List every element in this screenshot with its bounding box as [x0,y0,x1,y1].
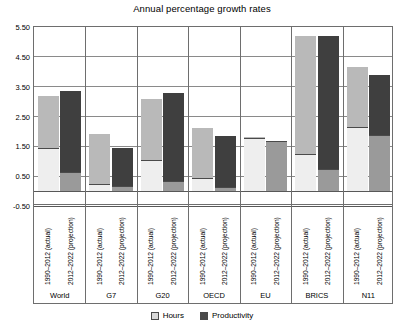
segment-productivity [295,36,316,156]
bar-g7-actual [89,134,110,191]
x-axis-label: 1990–2012 (actual) [302,228,309,285]
group-band-separator [343,288,344,303]
x-axis-label: 1990–2012 (actual) [44,228,51,285]
segment-hours [266,141,287,191]
x-band-separator [85,205,86,288]
group-band-separator [85,288,86,303]
bar-world-projection [60,91,81,191]
y-tick-label: 4.50 [15,52,30,61]
segment-productivity [112,148,133,188]
group-separator [291,27,292,206]
bar-oecd-projection [215,136,236,191]
group-separator [240,27,241,206]
x-axis-label: 2012–2022 (projection) [376,217,383,285]
y-tick-label: 2.50 [15,112,30,121]
bar-g7-projection [112,148,133,191]
segment-hours [192,178,213,191]
segment-productivity [89,134,110,186]
group-label-n11: N11 [343,291,394,300]
group-separator [137,27,138,206]
legend-swatch-productivity-icon [200,312,208,320]
y-tick-label: 0.50 [15,172,30,181]
group-label-oecd: OECD [188,291,239,300]
segment-productivity [192,128,213,180]
group-label-g7: G7 [85,291,136,300]
segment-hours [60,172,81,191]
group-band-separator [137,288,138,303]
segment-hours [347,127,368,191]
x-axis-label: 1990–2012 (actual) [96,228,103,285]
segment-hours [369,135,390,191]
legend-item-hours: Hours [151,311,184,320]
x-band-separator [291,205,292,288]
bar-n11-actual [347,67,368,191]
segment-hours [89,184,110,191]
y-tick-label: 3.50 [15,82,30,91]
legend: Hours Productivity [0,311,404,320]
bar-eu-projection [266,142,287,191]
x-band-separator [188,205,189,288]
y-tick-label: 1.50 [15,142,30,151]
y-tick-label: -0.50 [13,202,30,211]
segment-hours [163,181,184,191]
segment-hours [141,160,162,191]
plot-area: 5.504.503.502.501.500.50-0.50 [33,26,393,205]
bar-brics-actual [295,36,316,191]
segment-productivity [60,91,81,174]
legend-swatch-hours-icon [151,312,159,320]
y-tick-label: 5.50 [15,23,30,32]
group-band-separator [188,288,189,303]
x-axis-label: 2012–2022 (projection) [118,217,125,285]
group-separator [343,27,344,206]
segment-productivity [369,75,390,137]
x-axis-label: 2012–2022 (projection) [324,217,331,285]
bar-brics-projection [318,36,339,191]
x-axis-label: 2012–2022 (projection) [273,217,280,285]
legend-label-productivity: Productivity [212,311,253,320]
segment-productivity [141,99,162,163]
group-label-eu: EU [240,291,291,300]
x-band-separator [137,205,138,288]
x-band-separator [343,205,344,288]
x-axis-label: 1990–2012 (actual) [147,228,154,285]
bar-oecd-actual [192,128,213,191]
bar-g20-projection [163,93,184,191]
x-band-separator [240,205,241,288]
legend-label-hours: Hours [163,311,184,320]
bar-series [34,27,392,204]
x-axis-label: 1990–2012 (actual) [199,228,206,285]
group-label-world: World [34,291,85,300]
segment-productivity [38,96,59,151]
bar-eu-actual [244,137,265,191]
x-axis-label: 2012–2022 (projection) [170,217,177,285]
group-label-g20: G20 [137,291,188,300]
segment-hours [215,187,236,191]
segment-hours [318,169,339,191]
legend-item-productivity: Productivity [200,311,253,320]
chart-title: Annual percentage growth rates [0,3,404,14]
group-separator [188,27,189,206]
segment-hours [295,154,316,191]
segment-productivity [215,136,236,189]
x-axis-label: 1990–2012 (actual) [250,228,257,285]
x-axis-label: 1990–2012 (actual) [353,228,360,285]
group-separator [85,27,86,206]
segment-hours [112,186,133,191]
group-band-separator [291,288,292,303]
segment-hours [38,148,59,191]
x-axis-label: 2012–2022 (projection) [221,217,228,285]
group-label-band: WorldG7G20OECDEUBRICSN11 [33,288,393,304]
segment-productivity [163,93,184,184]
bar-world-actual [38,96,59,191]
segment-hours [244,138,265,191]
bar-n11-projection [369,75,390,191]
chart-container: Annual percentage growth rates 5.504.503… [0,0,404,335]
bar-g20-actual [141,99,162,191]
segment-productivity [347,67,368,129]
group-label-brics: BRICS [291,291,342,300]
segment-productivity [318,36,339,171]
group-band-separator [240,288,241,303]
x-axis-label: 2012–2022 (projection) [67,217,74,285]
x-axis-label-band: 1990–2012 (actual)2012–2022 (projection)… [33,205,393,288]
